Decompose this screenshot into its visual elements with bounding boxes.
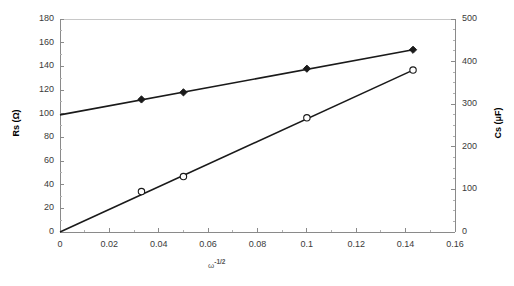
x-axis-tick-label: 0.12 — [336, 239, 376, 249]
x-axis-tick-label: 0.16 — [435, 239, 475, 249]
y-axis-right-tick-label: 200 — [462, 141, 490, 151]
y-axis-right-tick-label: 0 — [462, 226, 490, 236]
data-point-marker — [410, 67, 416, 73]
y-axis-right-tick-label: 100 — [462, 183, 490, 193]
data-point-marker — [303, 65, 310, 72]
data-point-marker — [180, 89, 187, 96]
x-axis-tick-label: 0.08 — [238, 239, 278, 249]
series-trend-line — [60, 70, 413, 232]
y-axis-left-tick-label: 60 — [28, 155, 54, 165]
chart-container: Rs (Ω) Cs (μF) ω-1/2 0204060801001201401… — [0, 0, 514, 286]
series-trend-line — [60, 50, 413, 115]
data-series-layer — [60, 46, 417, 232]
series-2 — [60, 67, 416, 232]
data-point-marker — [304, 115, 310, 121]
y-axis-left-tick-label: 160 — [28, 37, 54, 47]
y-axis-left-title: Rs (Ω) — [11, 93, 21, 153]
series-1 — [60, 46, 417, 115]
x-axis-tick-label: 0.04 — [139, 239, 179, 249]
y-axis-left-tick-label: 140 — [28, 60, 54, 70]
y-axis-right-tick-label: 400 — [462, 56, 490, 66]
data-point-marker — [409, 46, 416, 53]
x-axis-title: ω-1/2 — [208, 258, 225, 270]
data-point-marker — [180, 173, 186, 179]
data-point-marker — [138, 188, 144, 194]
x-axis-tick-label: 0.02 — [89, 239, 129, 249]
y-axis-right-title: Cs (μF) — [493, 93, 503, 153]
x-axis-tick-label: 0 — [40, 239, 80, 249]
y-axis-right-tick-label: 300 — [462, 98, 490, 108]
y-axis-left-tick-label: 0 — [28, 226, 54, 236]
y-axis-left-tick-label: 100 — [28, 108, 54, 118]
x-axis-title-exponent: -1/2 — [214, 258, 225, 265]
y-axis-left-tick-label: 180 — [28, 13, 54, 23]
y-axis-right-tick-label: 500 — [462, 13, 490, 23]
y-axis-left-tick-label: 120 — [28, 84, 54, 94]
x-axis-tick-label: 0.1 — [287, 239, 327, 249]
x-axis-tick-label: 0.06 — [188, 239, 228, 249]
y-axis-left-tick-label: 80 — [28, 131, 54, 141]
tick-marks — [60, 19, 455, 232]
x-axis-tick-label: 0.14 — [386, 239, 426, 249]
y-axis-left-tick-label: 20 — [28, 202, 54, 212]
data-point-marker — [138, 96, 145, 103]
axis-lines — [60, 19, 455, 232]
y-axis-left-tick-label: 40 — [28, 179, 54, 189]
